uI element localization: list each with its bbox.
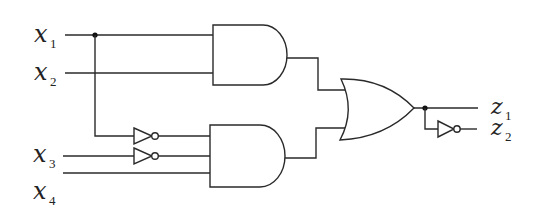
svg-text:x: x xyxy=(34,20,48,48)
input-label-x2: x 2 xyxy=(34,58,57,89)
svg-text:1: 1 xyxy=(50,36,57,51)
svg-text:3: 3 xyxy=(49,156,56,171)
input-label-x1: x 1 xyxy=(34,20,57,51)
wire-output-branch xyxy=(425,108,438,129)
wire-and2-to-or xyxy=(285,128,348,158)
svg-text:x: x xyxy=(34,58,48,86)
wire-and1-to-or xyxy=(287,58,348,90)
input-label-x4: x 4 xyxy=(33,177,56,208)
and-gate-2 xyxy=(210,125,285,187)
svg-text:1: 1 xyxy=(505,108,512,123)
or-gate xyxy=(340,79,414,140)
svg-text:x: x xyxy=(33,140,47,168)
svg-text:2: 2 xyxy=(505,129,512,144)
logic-circuit-diagram: x 1 x 2 x 3 x 4 xyxy=(0,0,539,222)
wire-x1-branch xyxy=(95,35,134,136)
not-gate-x3 xyxy=(134,148,158,164)
svg-text:z: z xyxy=(490,115,503,140)
svg-text:2: 2 xyxy=(50,74,57,89)
and-gate-1 xyxy=(213,25,287,85)
svg-text:x: x xyxy=(33,177,47,205)
not-gate-x1 xyxy=(134,128,158,144)
not-gate-output xyxy=(438,121,460,137)
svg-text:4: 4 xyxy=(49,193,56,208)
input-label-x3: x 3 xyxy=(33,140,56,171)
